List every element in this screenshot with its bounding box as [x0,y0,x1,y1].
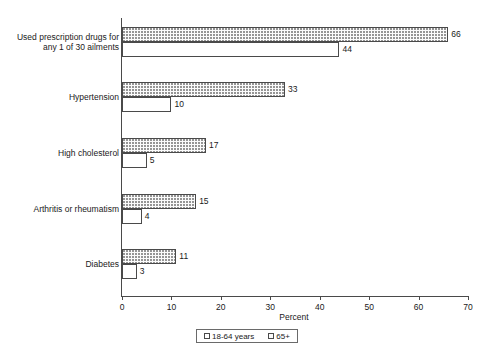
x-tick-label: 50 [364,302,373,312]
chart-legend: 18-64 years 65+ [196,329,298,343]
bar-value-label: 15 [196,194,208,209]
x-tick-label: 40 [315,302,324,312]
legend-label: 18-64 years [212,332,254,341]
category-label: Diabetes [0,259,119,269]
x-tick-label: 60 [414,302,423,312]
category-label: Hypertension [0,92,119,102]
x-tick [369,296,370,300]
category-label-line: High cholesterol [0,148,119,158]
plot-area: 66443310175154113 010203040506070 [121,18,468,297]
x-tick-label: 10 [167,302,176,312]
chart-title-clipped [0,0,489,3]
bar-chart: 66443310175154113 010203040506070 Used p… [0,0,489,345]
x-axis-title: Percent [121,312,467,322]
x-tick-label: 0 [120,302,125,312]
x-tick [221,296,222,300]
bar [122,82,285,97]
category-label: High cholesterol [0,148,119,158]
x-tick-label: 20 [216,302,225,312]
legend-label: 65+ [276,332,290,341]
bar [122,27,448,42]
x-tick-label: 30 [266,302,275,312]
category-label-line: Hypertension [0,92,119,102]
legend-item: 65+ [268,332,290,341]
bar [122,153,147,168]
bar-value-label: 10 [171,97,183,112]
bar [122,138,206,153]
bar-value-label: 4 [142,209,150,224]
bar-value-label: 5 [147,153,155,168]
legend-item: 18-64 years [204,332,254,341]
bar-value-label: 17 [206,138,218,153]
category-label-line: Used prescription drugs for [0,32,119,42]
x-tick [122,296,123,300]
legend-swatch-plain-icon [204,333,210,339]
x-tick [320,296,321,300]
bar-value-label: 66 [448,27,460,42]
x-tick-label: 70 [463,302,472,312]
bar [122,209,142,224]
bar [122,42,339,57]
bar-value-label: 11 [176,249,188,264]
bar-value-label: 33 [285,82,297,97]
category-label-line: any 1 of 30 ailments [0,42,119,52]
category-label: Arthritis or rheumatism [0,204,119,214]
legend-swatch-dotted-icon [268,333,274,339]
x-tick [270,296,271,300]
bar-value-label: 3 [137,264,145,279]
category-label-line: Arthritis or rheumatism [0,204,119,214]
category-label: Used prescription drugs forany 1 of 30 a… [0,32,119,52]
x-tick [171,296,172,300]
bar [122,264,137,279]
bar [122,97,171,112]
bar [122,194,196,209]
category-label-line: Diabetes [0,259,119,269]
bar [122,249,176,264]
x-tick [468,296,469,300]
x-tick [419,296,420,300]
bar-value-label: 44 [339,42,351,57]
